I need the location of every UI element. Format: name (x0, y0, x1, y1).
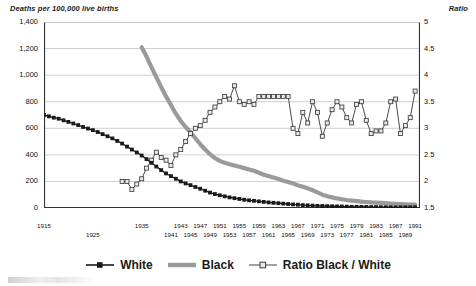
x-tick-label: 1943 (174, 222, 188, 229)
legend-swatch-ratio-icon (248, 259, 278, 271)
x-tick-label: 1959 (252, 222, 266, 229)
x-tick-label: 1973 (320, 231, 334, 238)
x-tick-label: 1991 (408, 222, 422, 229)
left-tick-label: 400 (2, 150, 38, 159)
legend-label-white: White (120, 258, 153, 272)
x-axis-labels: 1915193519431947195119551959196319671971… (0, 222, 476, 246)
left-axis-title: Deaths per 100,000 live births (10, 4, 118, 13)
x-tick-label: 1935 (135, 222, 149, 229)
right-tick-label: 2.5 (424, 150, 464, 159)
x-tick-label: 1947 (193, 222, 207, 229)
x-tick-label: 1951 (213, 222, 227, 229)
x-tick-label: 1941 (164, 231, 178, 238)
left-tick-label: 600 (2, 123, 38, 132)
left-tick-label: 200 (2, 176, 38, 185)
left-tick-label: 1,200 (2, 44, 38, 53)
right-tick-label: 4.5 (424, 44, 464, 53)
x-tick-label: 1949 (203, 231, 217, 238)
left-tick-label: 1,000 (2, 70, 38, 79)
right-tick-label: 5 (424, 17, 464, 26)
left-tick-label: 1,400 (2, 17, 38, 26)
x-tick-label: 1967 (291, 222, 305, 229)
x-tick-label: 1945 (184, 231, 198, 238)
x-tick-label: 1989 (398, 231, 412, 238)
x-tick-label: 1969 (301, 231, 315, 238)
x-tick-label: 1975 (330, 222, 344, 229)
right-tick-label: 3.5 (424, 97, 464, 106)
x-tick-label: 1987 (389, 222, 403, 229)
legend-item-ratio: Ratio Black / White (248, 258, 391, 272)
legend-swatch-black-icon (167, 259, 197, 271)
x-tick-label: 1983 (369, 222, 383, 229)
page-artifact (8, 277, 98, 283)
legend-item-white: White (85, 258, 153, 272)
right-axis-title: Ratio (449, 4, 468, 13)
right-tick-label: 2 (424, 176, 464, 185)
x-tick-label: 1981 (359, 231, 373, 238)
x-tick-label: 1979 (350, 222, 364, 229)
x-tick-label: 1985 (379, 231, 393, 238)
x-tick-label: 1915 (37, 222, 51, 229)
legend-swatch-white-icon (85, 259, 115, 271)
x-tick-label: 1961 (262, 231, 276, 238)
x-tick-label: 1953 (223, 231, 237, 238)
legend-item-black: Black (167, 258, 234, 272)
left-tick-label: 800 (2, 97, 38, 106)
chart-svg (44, 22, 420, 208)
x-tick-label: 1955 (232, 222, 246, 229)
right-tick-label: 1.5 (424, 203, 464, 212)
right-tick-label: 4 (424, 70, 464, 79)
legend-label-black: Black (202, 258, 234, 272)
chart-root: Deaths per 100,000 live births Ratio 020… (0, 0, 476, 286)
legend-label-ratio: Ratio Black / White (283, 258, 391, 272)
right-tick-label: 3 (424, 123, 464, 132)
x-tick-label: 1971 (311, 222, 325, 229)
x-tick-label: 1977 (340, 231, 354, 238)
plot-area (44, 22, 420, 208)
x-tick-label: 1957 (242, 231, 256, 238)
left-tick-label: 0 (2, 203, 38, 212)
x-tick-label: 1965 (281, 231, 295, 238)
x-tick-label: 1925 (86, 231, 100, 238)
x-tick-label: 1963 (271, 222, 285, 229)
chart-legend: White Black Ratio Black / White (0, 252, 476, 278)
